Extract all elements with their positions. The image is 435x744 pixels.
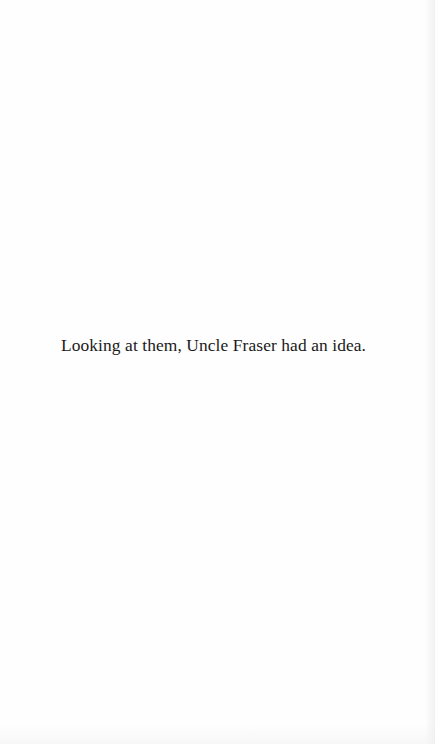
body-text-line: Looking at them, Uncle Fraser had an ide…: [61, 334, 366, 356]
book-page: Looking at them, Uncle Fraser had an ide…: [0, 0, 435, 744]
page-bottom-shadow: [0, 724, 435, 744]
page-edge-shadow: [425, 0, 435, 744]
